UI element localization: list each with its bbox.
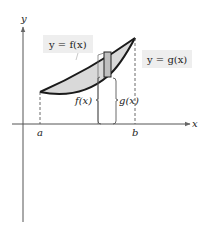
x-axis-label: x	[192, 118, 198, 129]
bound-a-label: a	[37, 127, 43, 138]
brace-label-f: f(x)	[74, 95, 92, 106]
y-axis-label: y	[20, 13, 27, 24]
representative-rectangle	[104, 52, 111, 77]
brace-label-g: g(x)	[119, 95, 139, 106]
area-between-curves-diagram: y x a b y = f(x) y = g(x) f(x) g(x)	[0, 0, 211, 239]
label-f: y = f(x)	[48, 39, 87, 50]
bound-b-label: b	[132, 127, 138, 138]
label-g: y = g(x)	[146, 54, 187, 65]
brace-g	[113, 78, 118, 124]
